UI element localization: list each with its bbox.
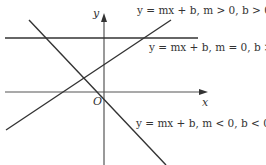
y-axis-arrow-icon	[101, 13, 107, 22]
x-axis-label: x	[202, 97, 208, 108]
negative-slope-equation-label: y = mx + b, m < 0, b < 0	[136, 118, 266, 129]
zero-slope-equation-label: y = mx + b, m = 0, b > 0	[149, 42, 266, 53]
y-axis-label: y	[93, 8, 99, 19]
coordinate-plane	[0, 0, 266, 165]
line-graph-diagram: y x O y = mx + b, m > 0, b > 0 y = mx + …	[0, 0, 266, 165]
x-axis-arrow-icon	[199, 89, 208, 95]
origin-label: O	[93, 96, 102, 107]
line-positive-slope	[6, 20, 171, 130]
positive-slope-equation-label: y = mx + b, m > 0, b > 0	[137, 5, 266, 16]
